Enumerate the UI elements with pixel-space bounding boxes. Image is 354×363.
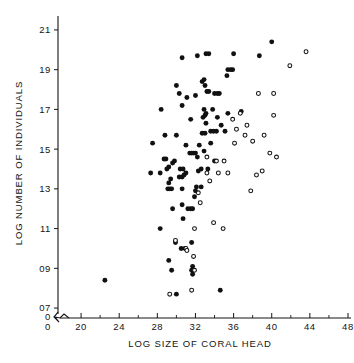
x-axis-title: LOG SIZE OF CORAL HEAD [128,338,272,349]
data-point-filled [166,165,171,170]
x-tick-label: 28 [151,321,163,332]
data-point-open [196,191,200,195]
data-point-filled [158,171,163,176]
data-point-filled [169,186,174,191]
data-series-open-circles [168,50,308,296]
data-point-filled [150,141,155,146]
data-point-filled [174,292,179,297]
data-point-filled [189,240,194,245]
data-point-filled [172,159,177,164]
data-point-open [168,292,172,296]
data-point-filled [192,194,197,199]
data-point-open [231,117,235,121]
y-tick-label: 13 [39,183,51,194]
x-tick-label: 44 [304,321,316,332]
data-point-filled [215,115,220,120]
data-point-filled [206,89,211,94]
data-point-filled [181,167,186,172]
x-tick-label: 40 [266,321,278,332]
data-point-filled [159,107,164,112]
data-point-filled [183,143,188,148]
axis-break-path [54,312,69,322]
data-point-filled [224,73,229,78]
x-origin-label: 0 [45,321,51,332]
data-point-filled [223,129,228,134]
data-point-filled [204,121,209,126]
data-point-filled [177,91,182,96]
data-point-filled [180,103,185,108]
data-point-filled [170,206,175,211]
data-point-filled [174,133,179,138]
data-point-filled [166,258,171,263]
data-point-filled [199,167,204,172]
data-point-open [255,173,259,177]
data-point-filled [180,186,185,191]
data-point-filled [214,129,219,134]
data-point-open [245,123,249,127]
data-point-filled [181,216,186,221]
data-point-open [251,139,255,143]
data-point-filled [193,93,198,98]
data-point-filled [206,51,211,56]
data-point-filled [193,151,198,156]
data-series-filled-circles [102,39,274,296]
data-point-filled [184,95,189,100]
data-point-filled [230,67,235,72]
data-point-filled [180,202,185,207]
data-point-open [214,159,218,163]
data-point-filled [199,184,204,189]
scatter-plot-figure: 07091113151719210 2024283236404448 0 LOG… [0,0,354,363]
data-point-open [226,171,230,175]
data-point-filled [202,77,207,82]
data-point-filled [202,107,207,112]
x-tick-label: 36 [228,321,240,332]
x-tick-label: 24 [113,321,125,332]
data-point-open [268,151,272,155]
data-point-open [262,133,266,137]
data-point-filled [217,91,222,96]
data-point-open [193,227,197,231]
data-point-filled [158,226,163,231]
data-point-open [185,249,189,253]
data-point-open [272,92,276,96]
data-point-filled [168,176,173,181]
data-point-filled [183,171,188,176]
chart-canvas: 07091113151719210 2024283236404448 0 LOG… [0,0,354,363]
data-point-filled [180,55,185,60]
data-point-open [249,189,253,193]
data-point-open [304,50,308,54]
y-tick-label: 17 [39,104,51,115]
data-point-filled [219,123,224,128]
y-axis: 07091113151719210 [39,16,58,322]
data-point-filled [269,39,274,44]
data-point-open [260,169,264,173]
data-point-open [243,133,247,137]
data-point-open [238,111,242,115]
data-point-open [208,179,212,183]
data-point-filled [210,107,215,112]
data-point-filled [194,184,199,189]
data-point-filled [163,157,168,162]
data-point-open [275,155,279,159]
y-axis-title: LOG NUMBER OF INDIVIDUALS [13,81,24,246]
data-point-open [174,239,178,243]
y-tick-label: 21 [39,24,51,35]
data-point-filled [188,117,193,122]
data-point-open [216,171,220,175]
x-tick-label: 32 [190,321,202,332]
data-point-filled [190,206,195,211]
x-tick-label: 48 [342,321,354,332]
data-point-filled [225,111,230,116]
data-point-filled [195,53,200,58]
data-point-filled [174,83,179,88]
data-point-open [235,127,239,131]
data-point-filled [202,149,207,154]
data-point-open [288,64,292,68]
y-tick-label: 11 [40,223,51,234]
data-point-filled [203,83,208,88]
data-point-open [272,113,276,117]
data-point-open [212,221,216,225]
data-point-open [205,171,209,175]
data-point-filled [218,288,223,293]
x-axis: 2024283236404448 [60,313,354,332]
